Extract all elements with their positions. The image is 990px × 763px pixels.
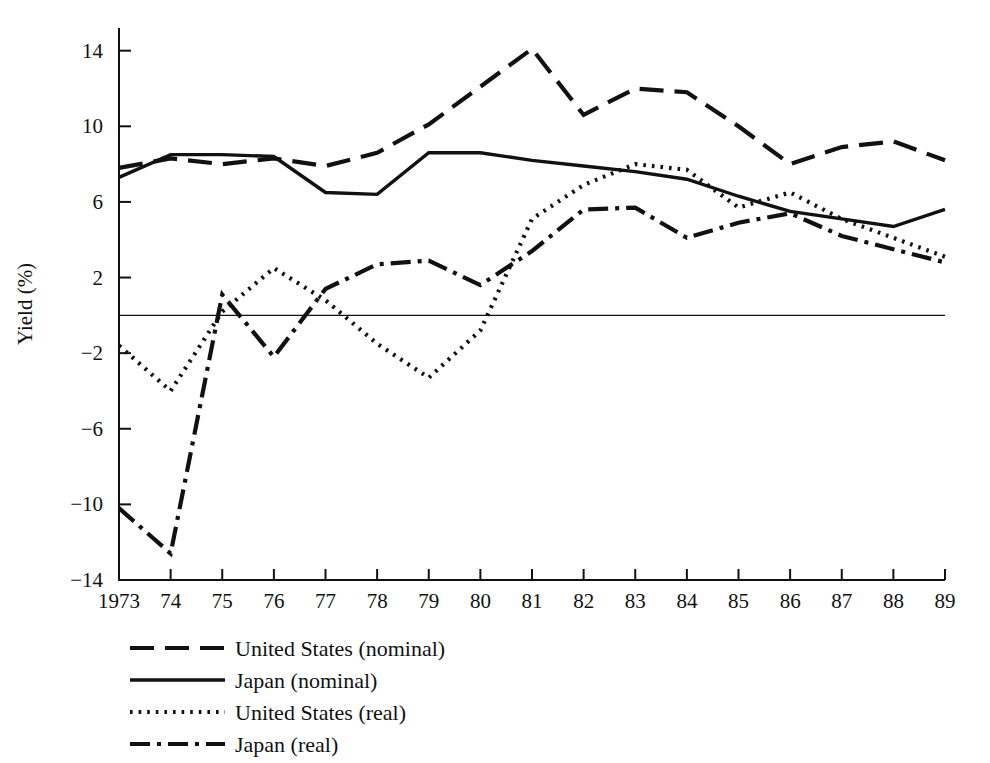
y-tick-label: −10	[70, 492, 103, 516]
x-tick-label: 81	[522, 589, 543, 613]
series-line-3	[119, 208, 945, 554]
legend-label-0[interactable]: United States (nominal)	[235, 636, 445, 661]
x-tick-label: 83	[625, 589, 646, 613]
x-tick-label: 1973	[98, 589, 140, 613]
y-tick-label: 2	[93, 266, 104, 290]
x-tick-label: 77	[315, 589, 336, 613]
x-tick-label: 88	[883, 589, 904, 613]
x-tick-label: 74	[160, 589, 182, 613]
legend-label-1[interactable]: Japan (nominal)	[235, 668, 377, 693]
x-tick-label: 85	[728, 589, 749, 613]
chart-figure: 141062−2−6−10−14197374757677787980818283…	[0, 0, 990, 763]
x-tick-label: 84	[676, 589, 698, 613]
x-tick-label: 75	[212, 589, 233, 613]
y-axis-title: Yield (%)	[13, 263, 37, 345]
legend-label-3[interactable]: Japan (real)	[235, 732, 338, 757]
y-tick-label: −6	[81, 417, 103, 441]
x-tick-label: 89	[935, 589, 956, 613]
y-tick-label: 6	[93, 190, 104, 214]
x-tick-label: 78	[367, 589, 388, 613]
x-tick-label: 79	[418, 589, 439, 613]
line-chart: 141062−2−6−10−14197374757677787980818283…	[0, 0, 990, 763]
y-tick-label: 10	[82, 114, 103, 138]
y-tick-label: 14	[82, 39, 104, 63]
axis-frame	[119, 28, 945, 580]
y-tick-label: −2	[81, 341, 103, 365]
legend-label-2[interactable]: United States (real)	[235, 700, 406, 725]
x-tick-label: 76	[263, 589, 284, 613]
x-tick-label: 87	[831, 589, 852, 613]
series-line-0	[119, 49, 945, 168]
series-line-2	[119, 164, 945, 391]
x-tick-label: 86	[780, 589, 801, 613]
x-tick-label: 80	[470, 589, 491, 613]
x-tick-label: 82	[573, 589, 594, 613]
